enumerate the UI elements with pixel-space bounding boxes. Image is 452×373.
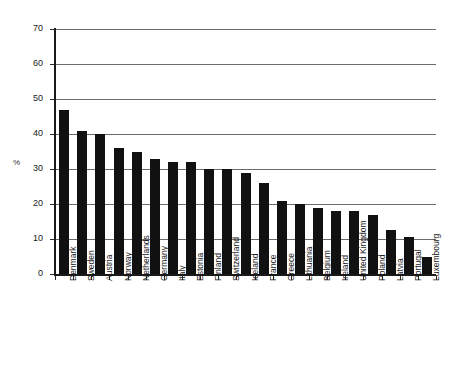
x-tick-label: Iceland — [250, 254, 260, 281]
y-tick-label: 50 — [21, 93, 43, 103]
bar — [114, 148, 124, 274]
x-tick-label: Finland — [213, 253, 223, 281]
y-tick-label: 20 — [21, 198, 43, 208]
x-tick-label: Sweden — [86, 250, 96, 281]
bar — [95, 134, 105, 274]
x-tick-label: Belgium — [322, 250, 332, 281]
x-tick-label: Greece — [286, 253, 296, 281]
x-tick-label: Poland — [377, 255, 387, 281]
x-tick-label: Switzerland — [231, 237, 241, 281]
x-tick-label: Portugal — [413, 249, 423, 281]
bar — [168, 162, 178, 274]
x-tick-label: Norway — [123, 252, 133, 281]
bar — [368, 215, 378, 275]
x-tick-label: Germany — [159, 246, 169, 281]
x-tick-label: Denmark — [68, 247, 78, 281]
y-axis-title: % — [13, 158, 20, 167]
x-tick-label: Luxembourg — [431, 234, 441, 281]
bar-chart: % 010203040506070 DenmarkSwedenAustriaNo… — [0, 0, 452, 373]
y-tick-label: 40 — [21, 128, 43, 138]
y-tick-label: 30 — [21, 163, 43, 173]
y-tick-label: 10 — [21, 233, 43, 243]
y-tick-label: 60 — [21, 58, 43, 68]
x-tick-label: United Kingdom — [358, 221, 368, 281]
x-tick-label: Estonia — [195, 253, 205, 281]
y-tick-label: 0 — [21, 268, 43, 278]
x-tick-label: France — [268, 255, 278, 281]
y-tick-label: 70 — [21, 23, 43, 33]
bar — [241, 173, 251, 275]
x-tick-label: Netherlands — [141, 235, 151, 281]
x-tick-mark — [55, 276, 56, 280]
x-tick-label: Austria — [104, 255, 114, 281]
x-tick-label: Ireland — [340, 255, 350, 281]
x-tick-label: Lithuania — [304, 246, 314, 281]
x-tick-label: Latvia — [395, 258, 405, 281]
x-tick-label: Italy — [177, 265, 187, 281]
bars-container — [55, 29, 436, 274]
